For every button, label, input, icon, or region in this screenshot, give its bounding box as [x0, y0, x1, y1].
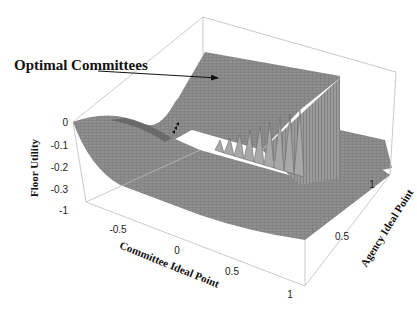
z-axis-label: Floor Utility: [28, 138, 40, 197]
svg-text:-0.1: -0.1: [51, 140, 69, 151]
svg-text:-1: -1: [59, 205, 68, 216]
surface-plot: Optimal Committees 0 -0.1 -0.2 -0.3 -1 F…: [0, 0, 417, 313]
svg-text:0.5: 0.5: [225, 266, 239, 277]
svg-text:0.5: 0.5: [335, 231, 349, 242]
x-axis-ticks: -0.5 0 0.5 1: [109, 224, 293, 300]
x-axis-label: Committee Ideal Point: [118, 239, 221, 290]
svg-text:1: 1: [369, 179, 375, 190]
surface: [73, 52, 392, 240]
annotation-text: Optimal Committees: [14, 57, 148, 73]
svg-text:0: 0: [62, 117, 68, 128]
z-axis-ticks: 0 -0.1 -0.2 -0.3 -1: [51, 117, 69, 216]
y-axis-label: Agency Ideal Point: [358, 187, 416, 269]
svg-text:0: 0: [174, 245, 180, 256]
svg-text:-0.2: -0.2: [51, 162, 69, 173]
svg-text:1: 1: [287, 289, 293, 300]
svg-text:-0.3: -0.3: [51, 184, 69, 195]
svg-text:-0.5: -0.5: [109, 224, 127, 235]
